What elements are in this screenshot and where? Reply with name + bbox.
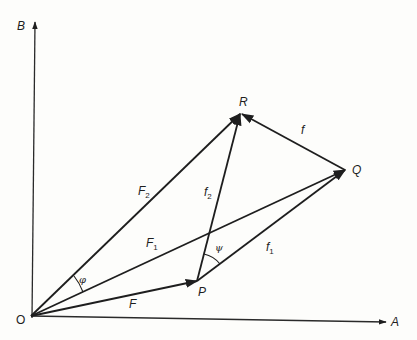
- vector-F-label-text: F: [129, 297, 136, 311]
- vector-F2-label: F2: [138, 185, 150, 200]
- axis-a: [31, 316, 386, 322]
- vector-F1: [31, 170, 345, 316]
- vector-F: [31, 281, 197, 316]
- point-r-label: R: [239, 96, 248, 108]
- vector-diagram: B A O P Q R F F1 F2 f1 f2 f φ ψ: [0, 0, 417, 340]
- angle-arc-psi: [204, 254, 220, 264]
- axis-a-label: A: [391, 316, 399, 328]
- origin-label: O: [16, 314, 25, 326]
- vector-F1-label: F1: [146, 237, 158, 252]
- vector-f-label: f: [301, 124, 304, 136]
- vector-F-label: F: [129, 298, 136, 310]
- angle-psi-label: ψ: [215, 243, 223, 253]
- point-q-label: Q: [352, 164, 361, 176]
- vector-F2-subscript: 2: [145, 191, 149, 200]
- vector-f: [242, 114, 345, 170]
- axis-b: [32, 22, 35, 318]
- vector-f1-label: f1: [266, 241, 274, 256]
- vector-f2-label: f2: [204, 186, 212, 201]
- vector-f1: [197, 170, 345, 281]
- vector-F1-subscript: 1: [153, 243, 157, 252]
- angle-phi-label: φ: [79, 275, 86, 285]
- axis-b-label: B: [17, 20, 25, 32]
- vector-F2: [31, 114, 240, 316]
- vector-f1-subscript: 1: [269, 247, 273, 256]
- point-p-label: P: [198, 286, 206, 298]
- vector-f2-subscript: 2: [207, 192, 211, 201]
